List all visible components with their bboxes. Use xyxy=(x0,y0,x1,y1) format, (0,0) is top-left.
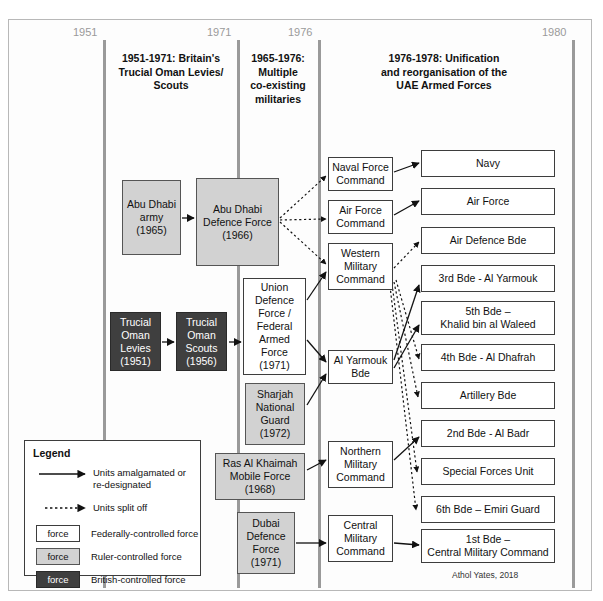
year-label-1951: 1951 xyxy=(73,26,97,38)
node-special-forces-unit[interactable]: Special Forces Unit xyxy=(421,458,555,485)
node-1st-bde-central-military-command[interactable]: 1st Bde – Central Military Command xyxy=(421,529,555,563)
node-2nd-bde-al-badr[interactable]: 2nd Bde - Al Badr xyxy=(421,420,555,447)
era-title-1: 1951-1971: Britain's Trucial Oman Levies… xyxy=(108,52,234,93)
node-5th-bde-khalid-bin-al-waleed[interactable]: 5th Bde – Khalid bin al Waleed xyxy=(421,301,555,335)
year-label-1971: 1971 xyxy=(207,26,231,38)
node-northern-military-command[interactable]: Northern Military Command xyxy=(328,441,393,488)
year-label-1976: 1976 xyxy=(288,26,312,38)
node-air-force[interactable]: Air Force xyxy=(421,188,555,215)
node-western-military-command[interactable]: Western Military Command xyxy=(328,243,393,290)
node-al-yarmouk-bde[interactable]: Al Yarmouk Bde xyxy=(328,350,393,384)
node-navy[interactable]: Navy xyxy=(421,150,555,177)
node-trucial-oman-levies[interactable]: Trucial Oman Levies (1951) xyxy=(110,312,161,371)
legend-swatch-ruler: force xyxy=(36,548,80,565)
era-title-2: 1965-1976: Multiple co-existing militari… xyxy=(241,52,315,106)
node-air-defence-bde[interactable]: Air Defence Bde xyxy=(421,227,555,254)
node-air-force-command[interactable]: Air Force Command xyxy=(328,200,393,234)
timeline-divider-1971 xyxy=(237,40,240,588)
legend-swatch-federal: force xyxy=(36,525,80,542)
node-dubai-defence-force[interactable]: Dubai Defence Force (1971) xyxy=(237,512,295,574)
legend-item-solid-arrow-label: Units amalgamated or re-designated xyxy=(93,467,199,491)
node-abu-dhabi-army[interactable]: Abu Dhabi army (1965) xyxy=(122,180,181,255)
node-trucial-oman-scouts[interactable]: Trucial Oman Scouts (1956) xyxy=(176,312,227,371)
diagram-canvas: 1951 1971 1976 1980 1951-1971: Britain's… xyxy=(0,0,603,601)
legend-item-british-label: British-controlled force xyxy=(91,574,201,586)
node-sharjah-national-guard[interactable]: Sharjah National Guard (1972) xyxy=(245,383,305,445)
legend: Legend Units amalgamated or re-designate… xyxy=(24,440,201,576)
node-3rd-bde-al-yarmouk[interactable]: 3rd Bde - Al Yarmouk xyxy=(421,265,555,292)
timeline-divider-1980 xyxy=(572,40,575,588)
node-abu-dhabi-defence-force[interactable]: Abu Dhabi Defence Force (1966) xyxy=(196,178,279,266)
credit-label: Athol Yates, 2018 xyxy=(452,570,518,580)
year-label-1980: 1980 xyxy=(542,26,566,38)
legend-item-ruler-label: Ruler-controlled force xyxy=(91,551,201,563)
node-4th-bde-al-dhafrah[interactable]: 4th Bde - Al Dhafrah xyxy=(421,344,555,371)
legend-item-dotted-arrow-label: Units split off xyxy=(93,502,199,514)
era-title-3: 1976-1978: Unification and reorganisatio… xyxy=(340,52,548,93)
timeline-divider-1976 xyxy=(318,40,321,588)
node-ras-al-khaimah-mobile-force[interactable]: Ras Al Khaimah Mobile Force (1968) xyxy=(215,453,305,500)
node-central-military-command[interactable]: Central Military Command xyxy=(328,515,393,562)
node-naval-force-command[interactable]: Naval Force Command xyxy=(328,157,393,191)
node-union-defence-force[interactable]: Union Defence Force / Federal Armed Forc… xyxy=(243,278,306,375)
legend-item-federal-label: Federally-controlled force xyxy=(91,528,201,540)
node-6th-bde-emiri-guard[interactable]: 6th Bde – Emiri Guard xyxy=(421,496,555,523)
legend-swatch-british: force xyxy=(36,571,80,588)
node-artillery-bde[interactable]: Artillery Bde xyxy=(421,382,555,409)
